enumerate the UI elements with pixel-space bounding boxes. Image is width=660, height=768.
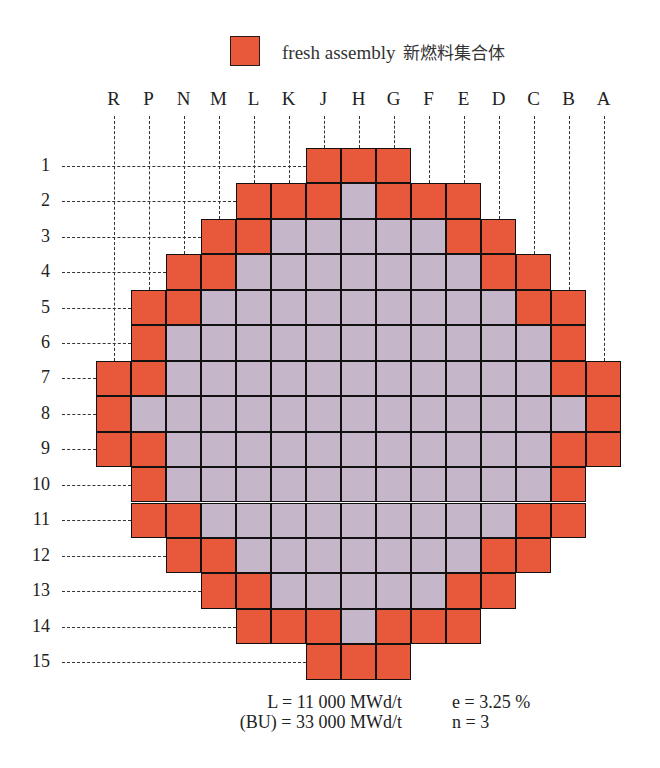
burned-assembly-D6 [481, 325, 516, 360]
burned-assembly-F11 [411, 503, 446, 538]
row-guide-line [62, 414, 96, 415]
burned-assembly-M10 [201, 467, 236, 502]
fresh-assembly-P6 [131, 325, 166, 360]
burned-assembly-D8 [481, 396, 516, 431]
burned-assembly-J12 [306, 538, 341, 573]
burned-assembly-E6 [446, 325, 481, 360]
row-label-6: 6 [20, 332, 50, 353]
burned-assembly-M8 [201, 396, 236, 431]
column-guide-line [569, 116, 570, 290]
burned-assembly-B8 [551, 396, 586, 431]
row-guide-line [62, 556, 166, 557]
column-guide-line [184, 116, 185, 254]
fresh-assembly-D12 [481, 538, 516, 573]
fresh-assembly-P9 [131, 432, 166, 467]
column-label-F: F [411, 88, 446, 110]
burned-assembly-F9 [411, 432, 446, 467]
burned-assembly-C6 [516, 325, 551, 360]
column-guide-line [499, 116, 500, 219]
burned-assembly-F3 [411, 219, 446, 254]
legend-label: fresh assembly新燃料集合体 [282, 39, 505, 64]
burned-assembly-L6 [236, 325, 271, 360]
row-label-13: 13 [20, 580, 50, 601]
fresh-assembly-swatch [230, 36, 260, 66]
burned-assembly-L12 [236, 538, 271, 573]
column-label-K: K [271, 88, 306, 110]
fresh-assembly-G1 [376, 148, 411, 183]
burned-assembly-D7 [481, 361, 516, 396]
fresh-assembly-H1 [341, 148, 376, 183]
burned-assembly-F7 [411, 361, 446, 396]
burned-assembly-J3 [306, 219, 341, 254]
column-guide-line [464, 116, 465, 183]
fresh-assembly-D13 [481, 573, 516, 608]
row-guide-line [62, 591, 201, 592]
column-guide-line [394, 116, 395, 148]
burned-assembly-C10 [516, 467, 551, 502]
burned-assembly-H5 [341, 290, 376, 325]
burned-assembly-C7 [516, 361, 551, 396]
row-guide-line [62, 237, 201, 238]
fresh-assembly-C12 [516, 538, 551, 573]
burned-assembly-K12 [271, 538, 306, 573]
burned-assembly-J7 [306, 361, 341, 396]
row-label-8: 8 [20, 403, 50, 424]
row-guide-line [62, 378, 96, 379]
burned-assembly-H4 [341, 254, 376, 289]
fresh-assembly-N11 [166, 503, 201, 538]
row-guide-line [62, 485, 131, 486]
fresh-assembly-M13 [201, 573, 236, 608]
burned-assembly-K7 [271, 361, 306, 396]
burned-assembly-J13 [306, 573, 341, 608]
burned-assembly-N10 [166, 467, 201, 502]
fresh-assembly-M12 [201, 538, 236, 573]
burned-assembly-H7 [341, 361, 376, 396]
fresh-assembly-M3 [201, 219, 236, 254]
row-label-12: 12 [20, 545, 50, 566]
fresh-assembly-H15 [341, 644, 376, 679]
fresh-assembly-B5 [551, 290, 586, 325]
burned-assembly-G11 [376, 503, 411, 538]
fresh-assembly-L13 [236, 573, 271, 608]
burned-assembly-P8 [131, 396, 166, 431]
burned-assembly-K5 [271, 290, 306, 325]
burned-assembly-G3 [376, 219, 411, 254]
burned-assembly-J4 [306, 254, 341, 289]
fresh-assembly-G14 [376, 609, 411, 644]
column-guide-line [219, 116, 220, 219]
burned-assembly-J6 [306, 325, 341, 360]
column-guide-line [254, 116, 255, 183]
burned-assembly-C8 [516, 396, 551, 431]
fresh-assembly-F2 [411, 183, 446, 218]
burned-assembly-N9 [166, 432, 201, 467]
row-label-2: 2 [20, 190, 50, 211]
fresh-assembly-A9 [586, 432, 621, 467]
legend: fresh assembly新燃料集合体 [230, 36, 505, 66]
fresh-assembly-N12 [166, 538, 201, 573]
column-label-M: M [201, 88, 236, 110]
column-label-G: G [376, 88, 411, 110]
burned-assembly-K3 [271, 219, 306, 254]
burned-assembly-G5 [376, 290, 411, 325]
burned-assembly-F4 [411, 254, 446, 289]
row-guide-line [62, 662, 306, 663]
burned-assembly-L10 [236, 467, 271, 502]
fresh-assembly-B9 [551, 432, 586, 467]
fresh-assembly-L14 [236, 609, 271, 644]
fresh-assembly-E14 [446, 609, 481, 644]
fresh-assembly-D4 [481, 254, 516, 289]
burned-assembly-M7 [201, 361, 236, 396]
burned-assembly-G4 [376, 254, 411, 289]
column-label-B: B [551, 88, 586, 110]
fresh-assembly-P5 [131, 290, 166, 325]
row-guide-line [62, 449, 96, 450]
fresh-assembly-B7 [551, 361, 586, 396]
fresh-assembly-B6 [551, 325, 586, 360]
column-label-D: D [481, 88, 516, 110]
burned-assembly-K4 [271, 254, 306, 289]
burned-assembly-J10 [306, 467, 341, 502]
burned-assembly-H10 [341, 467, 376, 502]
burned-assembly-K8 [271, 396, 306, 431]
burned-assembly-J11 [306, 503, 341, 538]
burned-assembly-K10 [271, 467, 306, 502]
